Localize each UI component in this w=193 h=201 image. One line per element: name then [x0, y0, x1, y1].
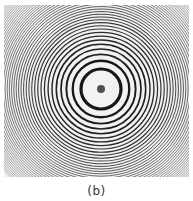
concentric-rings-graphic [4, 5, 189, 177]
interference-ring-photo [4, 5, 189, 177]
figure-caption: (b) [0, 184, 193, 198]
figure: (b) [0, 0, 193, 201]
central-dark-spot [97, 85, 105, 93]
